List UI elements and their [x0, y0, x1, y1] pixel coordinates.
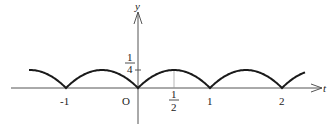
chart: y t O -1 1 2 1 2 1 4 [0, 0, 332, 131]
y-tick-quarter-den: 4 [127, 63, 133, 75]
x-tick-half-num: 1 [171, 88, 177, 100]
y-axis-label: y [134, 0, 140, 12]
y-tick-quarter-num: 1 [127, 51, 133, 63]
x-tick-half-den: 2 [171, 101, 177, 113]
x-axis-label: t [323, 82, 327, 94]
x-tick-label-2: 2 [279, 95, 285, 107]
x-tick-label-neg1: -1 [60, 95, 69, 107]
x-tick-label-1: 1 [207, 95, 213, 107]
curve [29, 70, 305, 88]
origin-label: O [122, 95, 130, 107]
